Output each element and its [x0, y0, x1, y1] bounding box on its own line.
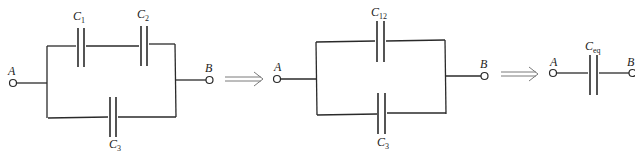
terminal-b-label: B — [205, 61, 213, 75]
stage3-circuit: A B Ceq — [549, 39, 635, 95]
circuit-diagram: A B C1 C2 C3 — [0, 0, 635, 158]
terminal-a-label: A — [549, 55, 558, 69]
capacitor-c3 — [378, 93, 385, 134]
c3-label: C3 — [377, 135, 389, 151]
stage2-circuit: A B C12 C3 — [273, 5, 488, 151]
terminal-b-label: B — [627, 55, 635, 69]
terminal-a — [10, 80, 17, 87]
terminal-a — [274, 76, 281, 83]
terminal-a — [550, 70, 557, 77]
reduction-arrow-1 — [225, 72, 263, 86]
capacitor-c1 — [78, 28, 84, 67]
capacitor-c2 — [141, 26, 147, 66]
ceq-label: Ceq — [585, 39, 601, 55]
terminal-a-label: A — [7, 64, 16, 78]
terminal-b — [629, 70, 635, 77]
terminal-a-label: A — [273, 60, 282, 74]
c12-label: C12 — [371, 5, 387, 21]
c1-label: C1 — [73, 9, 85, 25]
stage1-circuit: A B C1 C2 C3 — [7, 7, 213, 153]
terminal-b-label: B — [480, 57, 488, 71]
capacitor-c12 — [377, 21, 384, 62]
capacitor-c3 — [110, 97, 116, 137]
c2-label: C2 — [137, 7, 149, 23]
terminal-b — [481, 73, 488, 80]
c3-label: C3 — [109, 137, 121, 153]
capacitor-ceq — [590, 55, 597, 95]
reduction-arrow-2 — [501, 67, 538, 81]
terminal-b — [206, 77, 213, 84]
